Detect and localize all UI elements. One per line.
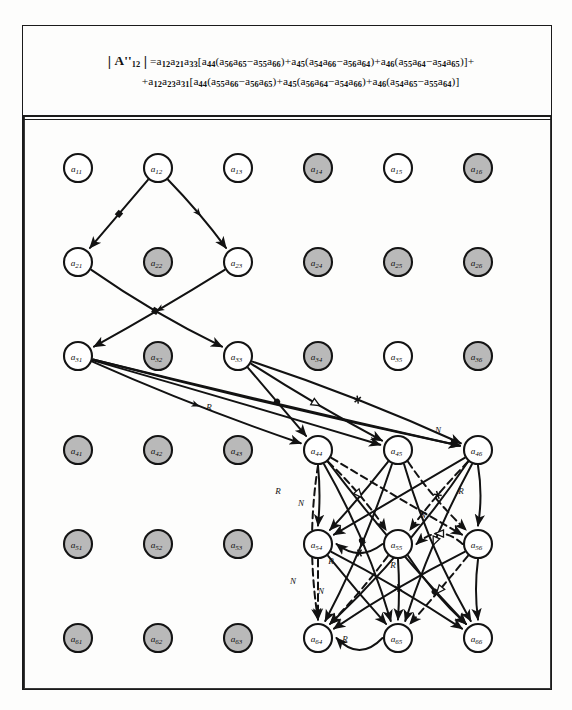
node-circle-a24[interactable]: [304, 248, 332, 276]
node-circle-a33[interactable]: [224, 342, 252, 370]
node-circle-a36[interactable]: [464, 342, 492, 370]
edge-label-n: N: [434, 425, 442, 435]
graph-node-a56[interactable]: a56: [464, 530, 492, 558]
edge-label-r: R: [327, 556, 334, 566]
graph-node-a62[interactable]: a62: [144, 624, 172, 652]
edge-label-n: N: [289, 576, 297, 586]
node-circle-a34[interactable]: [304, 342, 332, 370]
graph-node-a44[interactable]: a44: [304, 436, 332, 464]
graph-edge: [252, 362, 460, 444]
node-circle-a53[interactable]: [224, 530, 252, 558]
graph-node-a41[interactable]: a41: [64, 436, 92, 464]
graph-node-a52[interactable]: a52: [144, 530, 172, 558]
edge-arrow-marker: [191, 400, 201, 409]
edge-label-r: R: [274, 486, 281, 496]
node-circle-a43[interactable]: [224, 436, 252, 464]
node-circle-a21[interactable]: [64, 248, 92, 276]
node-circle-a15[interactable]: [384, 154, 412, 182]
graph-node-a15[interactable]: a15: [384, 154, 412, 182]
graph-node-a45[interactable]: a45: [384, 436, 412, 464]
edge-label-r: R: [389, 560, 396, 570]
graph-node-a24[interactable]: a24: [304, 248, 332, 276]
graph-node-a53[interactable]: a53: [224, 530, 252, 558]
graph-edge: [318, 466, 320, 526]
node-circle-a14[interactable]: [304, 154, 332, 182]
graph-edge: [478, 466, 481, 526]
graph-node-a31[interactable]: a31: [64, 342, 92, 370]
node-circle-a45[interactable]: [384, 436, 412, 464]
node-circle-a62[interactable]: [144, 624, 172, 652]
edge-label-r: R: [341, 634, 348, 644]
node-circle-a52[interactable]: [144, 530, 172, 558]
node-circle-a41[interactable]: [64, 436, 92, 464]
node-circle-a42[interactable]: [144, 436, 172, 464]
graph-node-a61[interactable]: a61: [64, 624, 92, 652]
node-circle-a22[interactable]: [144, 248, 172, 276]
graph-node-a12[interactable]: a12: [144, 154, 172, 182]
formula-band: | A''12 | =a12a21a33[a44(a56a65−a55a66)+…: [23, 26, 551, 117]
graph-node-a14[interactable]: a14: [304, 154, 332, 182]
graph-node-a16[interactable]: a16: [464, 154, 492, 182]
graph-node-a13[interactable]: a13: [224, 154, 252, 182]
node-circle-a66[interactable]: [464, 624, 492, 652]
graph-node-a21[interactable]: a21: [64, 248, 92, 276]
edge-label-n: N: [297, 498, 305, 508]
graph-node-a35[interactable]: a35: [384, 342, 412, 370]
formula-line-1: | A''12 | =a12a21a33[a44(a56a65−a55a66)+…: [108, 55, 474, 67]
graph-node-a34[interactable]: a34: [304, 342, 332, 370]
node-circle-a61[interactable]: [64, 624, 92, 652]
node-circle-a35[interactable]: [384, 342, 412, 370]
graph-node-a63[interactable]: a63: [224, 624, 252, 652]
graph-node-a36[interactable]: a36: [464, 342, 492, 370]
graph-node-a22[interactable]: a22: [144, 248, 172, 276]
graph-node-a54[interactable]: a54: [304, 530, 332, 558]
node-circle-a64[interactable]: [304, 624, 332, 652]
graph-node-a64[interactable]: a64: [304, 624, 332, 652]
edge-label-r: R: [205, 402, 212, 412]
graph-node-a11[interactable]: a11: [64, 154, 92, 182]
node-circle-a55[interactable]: [384, 530, 412, 558]
node-circle-a31[interactable]: [64, 342, 92, 370]
node-circle-a44[interactable]: [304, 436, 332, 464]
node-circle-a56[interactable]: [464, 530, 492, 558]
graph-node-a26[interactable]: a26: [464, 248, 492, 276]
graph-node-a43[interactable]: a43: [224, 436, 252, 464]
node-circle-a63[interactable]: [224, 624, 252, 652]
node-circle-a11[interactable]: [64, 154, 92, 182]
node-circle-a16[interactable]: [464, 154, 492, 182]
graph-node-a32[interactable]: a32: [144, 342, 172, 370]
graph-node-a25[interactable]: a25: [384, 248, 412, 276]
node-circle-a65[interactable]: [384, 624, 412, 652]
graph-node-a33[interactable]: a33: [224, 342, 252, 370]
graph-canvas: RNRNRNRNRNR a11a12a13a14a15a16a21a22a23a…: [23, 118, 551, 688]
node-circle-a12[interactable]: [144, 154, 172, 182]
edge-label-r: R: [457, 486, 464, 496]
graph-node-a42[interactable]: a42: [144, 436, 172, 464]
figure-page: | A''12 | =a12a21a33[a44(a56a65−a55a66)+…: [0, 0, 572, 710]
node-circle-a25[interactable]: [384, 248, 412, 276]
node-circle-a51[interactable]: [64, 530, 92, 558]
graph-edge: [93, 360, 380, 444]
edge-star-marker: [353, 395, 363, 404]
formula-line-2: +a12a23a31[a44(a55a66−a56a65)+a45(a56a64…: [108, 73, 474, 91]
graph-node-a66[interactable]: a66: [464, 624, 492, 652]
node-circle-a13[interactable]: [224, 154, 252, 182]
graph-node-a23[interactable]: a23: [224, 248, 252, 276]
graph-node-a51[interactable]: a51: [64, 530, 92, 558]
node-circle-a32[interactable]: [144, 342, 172, 370]
graph-node-a65[interactable]: a65: [384, 624, 412, 652]
node-circle-a26[interactable]: [464, 248, 492, 276]
graph-node-a55[interactable]: a55: [384, 530, 412, 558]
signal-flow-graph: RNRNRNRNRNR a11a12a13a14a15a16a21a22a23a…: [23, 118, 551, 688]
edge-label-n: N: [317, 586, 325, 596]
graph-edge: [476, 560, 478, 620]
edge-triangle-marker: [311, 398, 322, 408]
graph-node-a46[interactable]: a46: [464, 436, 492, 464]
edge-label-n: N: [419, 510, 427, 520]
node-circle-a46[interactable]: [464, 436, 492, 464]
graph-edge: [91, 270, 222, 347]
determinant-formula: | A''12 | =a12a21a33[a44(a56a65−a55a66)+…: [100, 50, 474, 91]
node-circle-a23[interactable]: [224, 248, 252, 276]
node-circle-a54[interactable]: [304, 530, 332, 558]
